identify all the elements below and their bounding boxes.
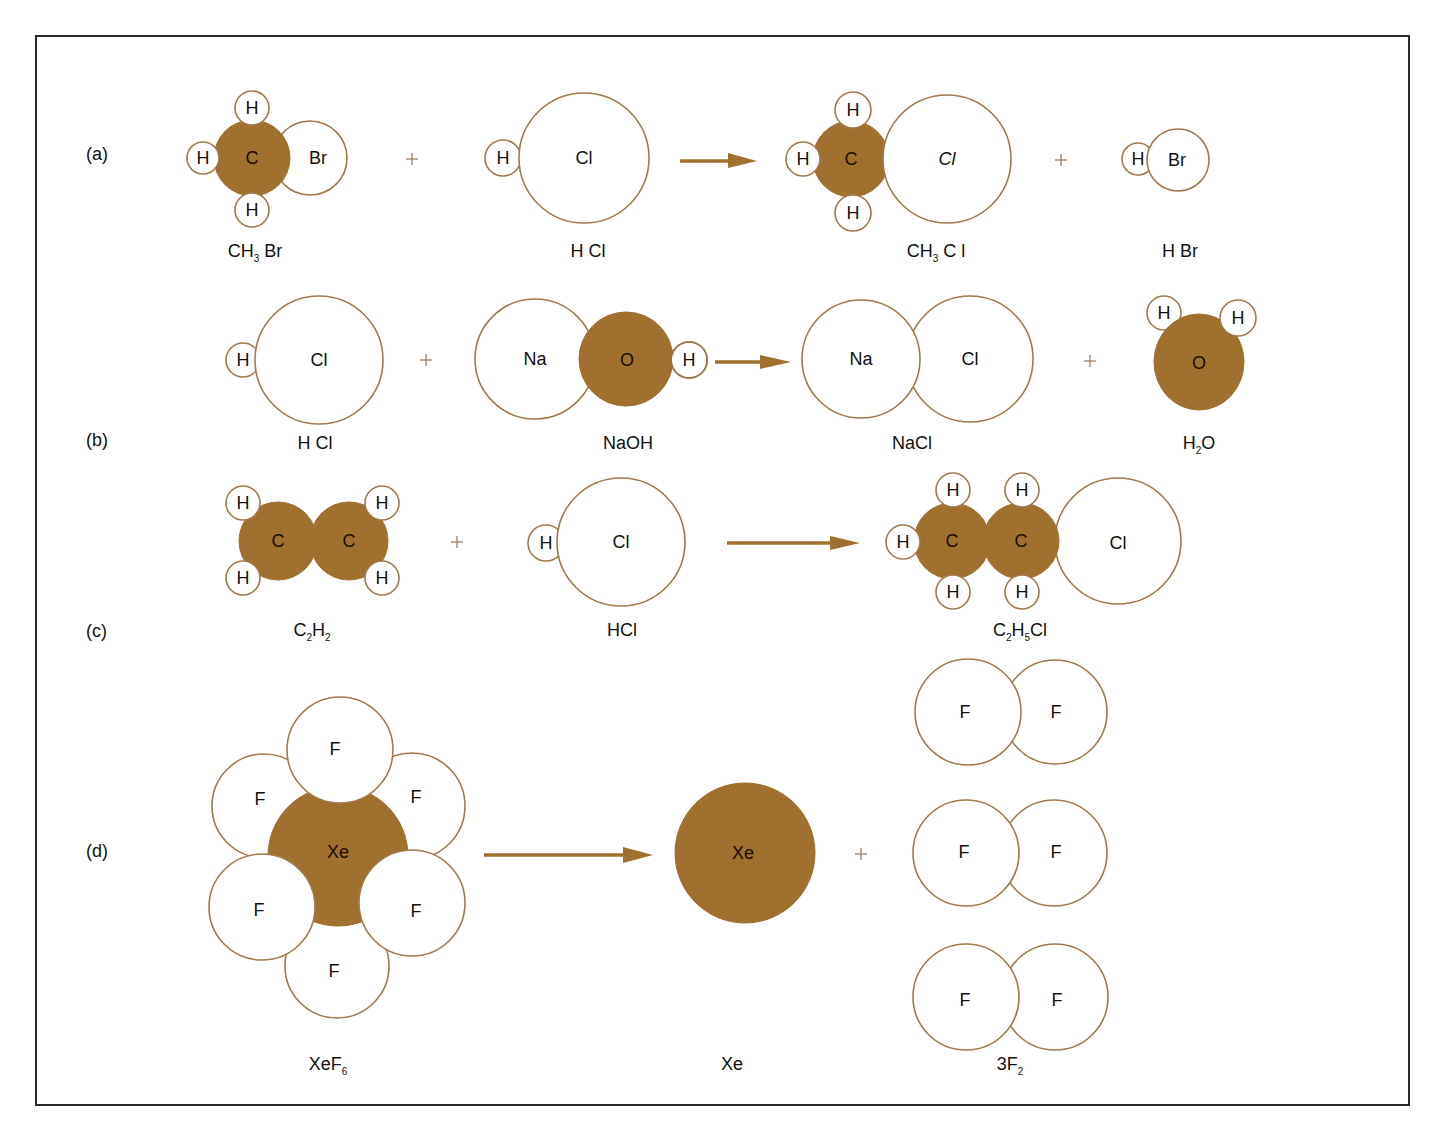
- plus-sign: [420, 354, 432, 366]
- atom-label: F: [960, 702, 971, 722]
- atom-label: H: [847, 203, 860, 223]
- atom-label: Xe: [732, 843, 754, 863]
- atom-label: H: [237, 568, 250, 588]
- formula-c2h2: C2H2: [293, 620, 331, 643]
- formula-nacl: NaCl: [892, 433, 932, 453]
- plus-sign: [451, 536, 463, 548]
- formula-hcl: H Cl: [298, 433, 333, 453]
- formula-ch3cl: CH3 C l: [907, 241, 966, 264]
- atom-label: H: [1232, 308, 1245, 328]
- molecule-ch3cl: C Cl H H H: [786, 92, 1011, 231]
- molecule-c2h5cl: C C Cl H H H H H: [886, 473, 1181, 609]
- atom-label: H: [1132, 149, 1145, 169]
- atom-label: F: [1051, 702, 1062, 722]
- atom-label: H: [237, 493, 250, 513]
- atom-label: Na: [849, 349, 873, 369]
- atom-label: F: [255, 789, 266, 809]
- reaction-diagram: (a) (b) (c) (d) Br C H H H CH3 Br H Cl H…: [0, 0, 1449, 1140]
- molecule-f2: F F: [913, 800, 1107, 906]
- atom-label: F: [254, 900, 265, 920]
- atom-label: C: [946, 531, 959, 551]
- atom-label: Br: [1168, 150, 1186, 170]
- molecule-f2: F F: [915, 659, 1107, 765]
- plus-sign: [406, 153, 418, 165]
- reaction-arrow: [484, 847, 653, 863]
- atom-label: H: [246, 98, 259, 118]
- atom-label: H: [897, 532, 910, 552]
- atom-label: Xe: [327, 842, 349, 862]
- atom-label: H: [497, 148, 510, 168]
- atom-label: H: [237, 350, 250, 370]
- molecule-naoh: Na H H O: [475, 299, 707, 419]
- atom-label: H: [540, 533, 553, 553]
- atom-label: H: [1016, 582, 1029, 602]
- formula-c2h5cl: C2H5Cl: [993, 620, 1047, 643]
- atom-label: H: [847, 100, 860, 120]
- molecule-f2: F F: [913, 944, 1108, 1050]
- atom-label: H: [376, 568, 389, 588]
- formula-3f2: 3F2: [997, 1054, 1024, 1077]
- formula-hbr: H Br: [1162, 241, 1198, 261]
- atom-label: O: [620, 350, 634, 370]
- formula-hcl: HCl: [607, 620, 637, 640]
- atom-label: Na: [523, 349, 547, 369]
- atom-label: H: [1158, 303, 1171, 323]
- atom-label: F: [1051, 842, 1062, 862]
- atom-label: Cl: [1110, 533, 1127, 553]
- molecule-hcl: H Cl: [528, 478, 685, 606]
- atom-label: F: [330, 739, 341, 759]
- atom-label: F: [1052, 990, 1063, 1010]
- atom-label: C: [272, 531, 285, 551]
- atom-label: C: [845, 149, 858, 169]
- plus-sign: [855, 848, 867, 860]
- atom-label: H: [376, 493, 389, 513]
- atom-label: F: [411, 787, 422, 807]
- atom-label: O: [1192, 353, 1206, 373]
- formula-ch3br: CH3 Br: [228, 241, 283, 264]
- atom-label: Br: [309, 148, 327, 168]
- molecule-nacl: Na Cl: [802, 296, 1033, 422]
- atom-label: Cl: [939, 149, 957, 169]
- atom-label: Cl: [576, 148, 593, 168]
- atom-label: H: [947, 582, 960, 602]
- atom-label: H: [246, 200, 259, 220]
- molecule-h2o: H O H: [1147, 296, 1256, 410]
- atom-label: F: [959, 842, 970, 862]
- atom-label: H: [683, 350, 696, 370]
- atom-label: H: [197, 148, 210, 168]
- plus-sign: [1084, 355, 1096, 367]
- molecule-hcl: H Cl: [485, 93, 649, 223]
- formula-xe: Xe: [721, 1054, 743, 1074]
- atom-label: C: [246, 148, 259, 168]
- molecule-hcl: H Cl: [226, 296, 383, 424]
- plus-sign: [1055, 154, 1067, 166]
- atom-label: H: [1016, 480, 1029, 500]
- molecule-c2h2: C C H H H H: [226, 486, 399, 595]
- part-label-c: (c): [86, 621, 107, 641]
- part-label-d: (d): [86, 841, 108, 861]
- atom-label: Cl: [311, 350, 328, 370]
- atom-label: H: [797, 149, 810, 169]
- atom-label: Cl: [962, 349, 979, 369]
- formula-h2o: H2O: [1183, 433, 1216, 456]
- formula-xef6: XeF6: [309, 1054, 348, 1077]
- molecule-xe: Xe: [675, 783, 815, 923]
- part-label-b: (b): [86, 430, 108, 450]
- reaction-arrow: [680, 153, 757, 168]
- atom-label: H: [947, 480, 960, 500]
- molecule-ch3br: Br C H H H: [187, 91, 347, 227]
- part-label-a: (a): [86, 144, 108, 164]
- reaction-arrow: [715, 355, 791, 369]
- molecule-xef6: F F F Xe F F F: [209, 697, 465, 1018]
- formula-hcl: H Cl: [571, 241, 606, 261]
- formula-naoh: NaOH: [603, 433, 653, 453]
- reaction-arrow: [727, 536, 860, 550]
- molecule-hbr: H Br: [1122, 129, 1209, 191]
- atom-label: Cl: [613, 532, 630, 552]
- atom-label: C: [1015, 531, 1028, 551]
- atom-label: F: [411, 901, 422, 921]
- atom-label: C: [343, 531, 356, 551]
- atom-label: F: [960, 990, 971, 1010]
- atom-label: F: [329, 961, 340, 981]
